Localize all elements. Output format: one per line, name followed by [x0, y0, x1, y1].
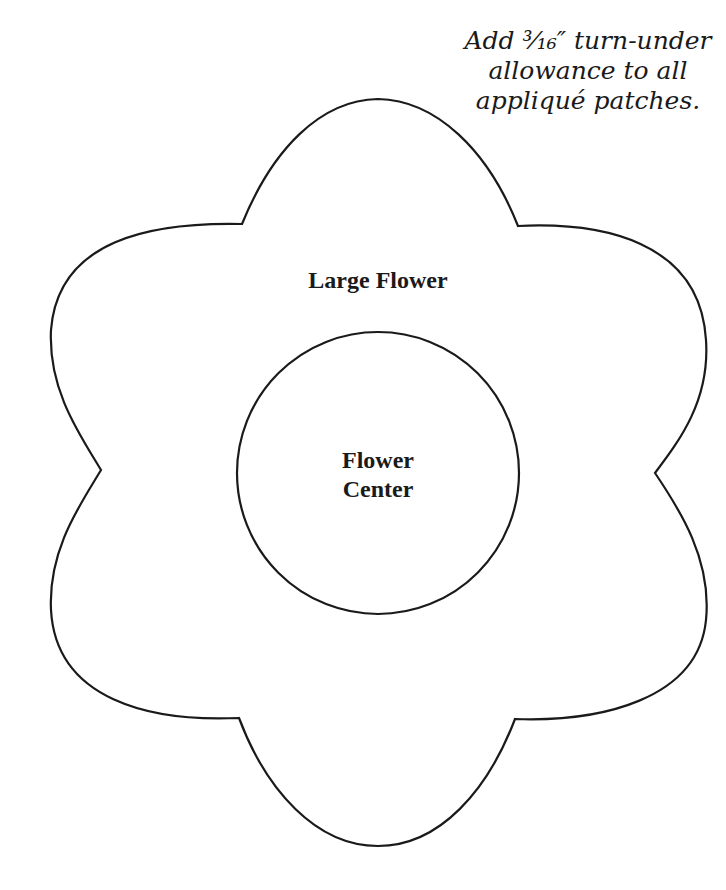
note-line-2: allowance to all — [458, 56, 718, 86]
note-line-1: Add ³⁄₁₆″ turn-under — [458, 26, 718, 56]
turn-under-allowance-note: Add ³⁄₁₆″ turn-under allowance to all ap… — [458, 26, 718, 116]
flower-center-label-line-2: Center — [278, 475, 478, 504]
flower-center-label: Flower Center — [278, 446, 478, 504]
flower-center-label-line-1: Flower — [278, 446, 478, 475]
note-line-3: appliqué patches. — [458, 86, 718, 116]
large-flower-label: Large Flower — [228, 266, 528, 295]
pattern-canvas — [0, 0, 726, 890]
